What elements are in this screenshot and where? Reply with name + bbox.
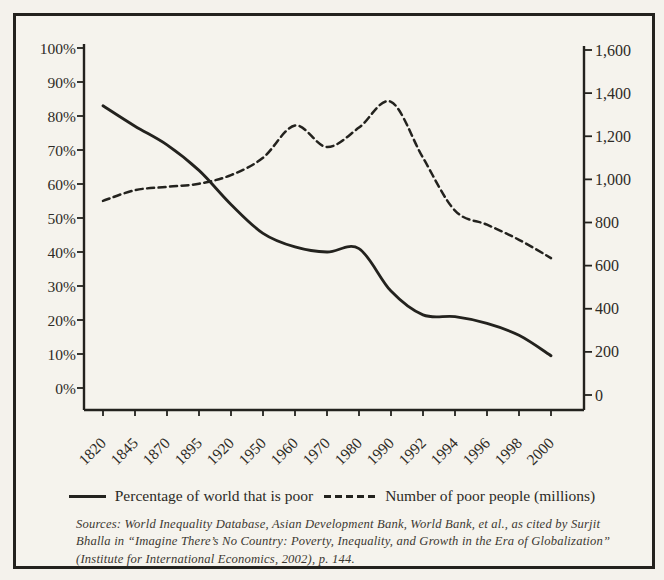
left-axis-tick-label: 30%	[48, 278, 77, 295]
legend-label-number: Number of poor people (millions)	[385, 487, 595, 505]
x-axis-tick-label: 1998	[491, 434, 525, 468]
x-axis-tick-label: 1992	[395, 434, 429, 468]
left-axis-tick-label: 50%	[48, 210, 77, 227]
source-citation: Sources: World Inequality Database, Asia…	[76, 516, 616, 568]
x-axis-tick-label: 1895	[171, 434, 205, 468]
right-axis-tick-label: 1,000	[595, 171, 631, 188]
x-axis-tick-label: 1960	[267, 434, 301, 468]
left-axis-tick-label: 40%	[48, 244, 77, 261]
x-axis-tick-label: 1950	[235, 434, 269, 468]
right-axis-tick-label: 1,600	[595, 42, 631, 59]
series-line-number-poor	[103, 101, 551, 258]
right-axis-tick-label: 800	[595, 214, 619, 231]
right-axis-tick-label: 200	[595, 343, 619, 360]
series-line-percentage-poor	[103, 106, 551, 356]
right-axis-tick-label: 1,400	[595, 85, 631, 102]
left-axis-tick-label: 100%	[40, 40, 76, 57]
source-line-3: (Institute for International Economics, …	[76, 551, 616, 568]
chart-legend: Percentage of world that is poor Number …	[0, 487, 664, 505]
x-axis-tick-label: 1920	[203, 434, 237, 468]
source-line-1: Sources: World Inequality Database, Asia…	[76, 516, 616, 533]
left-axis-tick-label: 10%	[48, 346, 77, 363]
left-axis-tick-label: 0%	[55, 380, 76, 397]
right-axis-tick-label: 0	[595, 387, 603, 404]
right-axis-tick-label: 1,200	[595, 128, 631, 145]
x-axis-tick-label: 1994	[427, 434, 461, 468]
left-axis-tick-label: 70%	[48, 142, 77, 159]
solid-line-swatch	[69, 495, 106, 498]
x-axis-tick-label: 1980	[331, 434, 365, 468]
left-axis-tick-label: 90%	[48, 74, 77, 91]
right-axis-tick-label: 600	[595, 257, 619, 274]
dashed-line-swatch	[324, 495, 376, 498]
x-axis-tick-label: 1996	[459, 434, 493, 468]
x-axis-tick-label: 1820	[75, 434, 109, 468]
x-axis-tick-label: 1870	[139, 434, 173, 468]
left-axis-tick-label: 80%	[48, 108, 77, 125]
right-axis-tick-label: 400	[595, 300, 619, 317]
x-axis-tick-label: 2000	[523, 434, 557, 468]
x-axis-tick-label: 1990	[363, 434, 397, 468]
x-axis-tick-label: 1970	[299, 434, 333, 468]
x-axis-tick-label: 1845	[107, 434, 141, 468]
legend-label-percentage: Percentage of world that is poor	[115, 487, 313, 505]
legend-item-percentage: Percentage of world that is poor	[69, 487, 313, 505]
legend-item-number: Number of poor people (millions)	[324, 487, 595, 505]
left-axis-tick-label: 60%	[48, 176, 77, 193]
left-axis-tick-label: 20%	[48, 312, 77, 329]
source-line-2: Bhalla in “Imagine There’s No Country: P…	[76, 533, 616, 550]
